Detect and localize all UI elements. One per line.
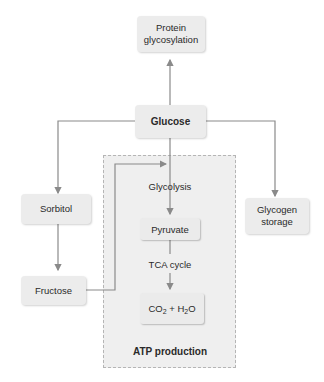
pyruvate-label: Pyruvate [151,224,189,235]
glycogen-storage-node: Glycogen storage [245,198,309,234]
glycolysis-label: Glycolysis [130,181,210,192]
tca-cycle-label: TCA cycle [130,259,210,270]
co2-h2o-node: CO2 + H2O [140,293,204,324]
fructose-node: Fructose [21,276,86,305]
glucose-label: Glucose [151,116,190,128]
glucose-node: Glucose [135,105,206,138]
sorbitol-label: Sorbitol [40,203,72,215]
fructose-label: Fructose [35,285,72,297]
glycogen-storage-label: Glycogen storage [245,204,309,228]
protein-glycosylation-label: Protein glycosylation [137,22,205,46]
pyruvate-node: Pyruvate [140,218,200,240]
co2-h2o-label: CO2 + H2O [148,303,195,315]
protein-glycosylation-node: Protein glycosylation [137,16,205,52]
sorbitol-node: Sorbitol [21,194,91,224]
atp-production-label: ATP production [115,346,225,357]
